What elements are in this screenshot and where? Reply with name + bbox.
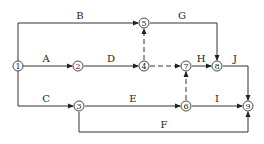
edge-label-B: B xyxy=(76,10,83,21)
svg-text:8: 8 xyxy=(214,62,219,71)
edge-J: J xyxy=(223,53,248,100)
edge-F: F xyxy=(79,112,248,132)
network-diagram: B A C D G H J E xyxy=(0,0,264,144)
edge-label-G: G xyxy=(178,10,186,21)
edge-H: H xyxy=(192,53,211,66)
node-2: 2 xyxy=(73,61,83,71)
edge-label-C: C xyxy=(42,93,50,104)
node-7: 7 xyxy=(181,61,191,71)
edge-G: G xyxy=(150,10,217,60)
svg-text:2: 2 xyxy=(75,62,80,71)
edge-I: I xyxy=(192,93,242,106)
edge-B: B xyxy=(18,10,138,61)
node-9: 9 xyxy=(243,101,253,111)
node-5: 5 xyxy=(139,18,149,28)
svg-text:4: 4 xyxy=(141,62,146,71)
edge-label-E: E xyxy=(129,93,136,104)
edge-label-D: D xyxy=(107,53,115,64)
edge-label-A: A xyxy=(41,53,50,64)
svg-text:5: 5 xyxy=(141,19,146,28)
edge-E: E xyxy=(85,93,180,106)
edge-D: D xyxy=(84,53,138,66)
edge-C: C xyxy=(18,71,73,106)
svg-text:9: 9 xyxy=(245,102,250,111)
node-1: 1 xyxy=(13,61,23,71)
edge-label-F: F xyxy=(161,119,168,130)
svg-text:7: 7 xyxy=(183,62,188,71)
svg-text:3: 3 xyxy=(76,102,81,111)
node-4: 4 xyxy=(139,61,149,71)
edge-label-I: I xyxy=(215,93,219,104)
svg-text:6: 6 xyxy=(183,102,188,111)
svg-text:1: 1 xyxy=(15,62,20,71)
edge-A: A xyxy=(23,53,72,66)
node-8: 8 xyxy=(212,61,222,71)
edge-label-H: H xyxy=(197,53,206,64)
node-3: 3 xyxy=(74,101,84,111)
node-6: 6 xyxy=(181,101,191,111)
edge-label-J: J xyxy=(232,53,237,64)
